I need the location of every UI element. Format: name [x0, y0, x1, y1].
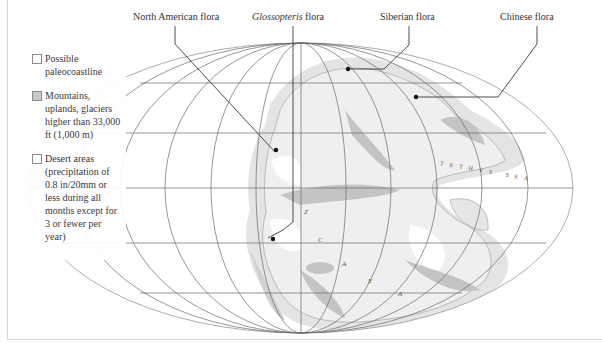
legend-item-desert: Desert areas (precipitation of 0.8 in/20…	[32, 152, 124, 243]
legend-label: Possible paleocoastline	[45, 52, 124, 78]
map-letter-a2: A	[398, 290, 402, 298]
glossopteris-suffix: flora	[303, 11, 324, 22]
siberian-flora-label: Siberian flora	[380, 11, 435, 22]
desert-swatch-icon	[32, 154, 42, 164]
map-letter-z: Z	[304, 208, 308, 216]
glossopteris-italic: Glossopteris	[252, 11, 303, 22]
chinese-leader-a	[498, 26, 537, 97]
legend-label: Mountains, uplands, glaciers higher than…	[45, 89, 124, 141]
north-american-flora-label: North American flora	[133, 11, 219, 22]
paleocoastline-swatch-icon	[32, 54, 42, 64]
glossopteris-flora-label: Glossopteris flora	[252, 11, 324, 22]
legend-label: Desert areas (precipitation of 0.8 in/20…	[45, 152, 124, 243]
mountains-swatch-icon	[32, 91, 42, 101]
legend-item-paleocoastline: Possible paleocoastline	[32, 52, 124, 78]
map-legend: Possible paleocoastline Mountains, uplan…	[28, 50, 126, 260]
map-letter-c: C	[318, 236, 323, 244]
chinese-flora-label: Chinese flora	[500, 11, 554, 22]
pangaea-landmass	[246, 57, 525, 330]
legend-item-mountains: Mountains, uplands, glaciers higher than…	[32, 89, 124, 141]
map-letter-a: A	[342, 260, 346, 268]
map-letter-e: E	[368, 277, 372, 285]
